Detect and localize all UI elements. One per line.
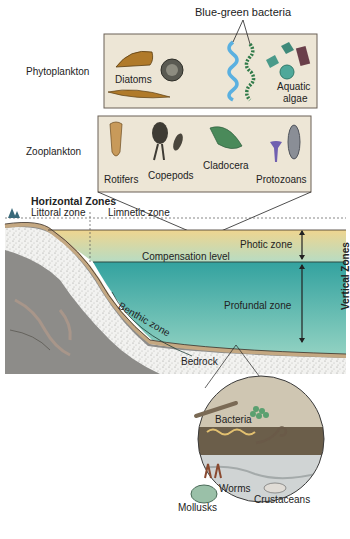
crustaceans-label: Crustaceans — [254, 494, 310, 505]
aquatic-label: Aquatic — [277, 81, 310, 92]
rotifers-label: Rotifers — [104, 174, 138, 185]
cladocera-label: Cladocera — [203, 160, 249, 171]
bacteria-label: Bacteria — [215, 414, 252, 425]
benthic-inset — [195, 375, 330, 505]
profundal-zone-label: Profundal zone — [224, 300, 291, 311]
rotifer-icon — [110, 122, 122, 156]
horizontal-zones-title: Horizontal Zones — [31, 195, 116, 207]
tree-icon — [8, 208, 20, 218]
copepods-label: Copepods — [148, 170, 194, 181]
crustacean-icon — [264, 483, 286, 493]
worms-label: Worms — [219, 483, 250, 494]
limnetic-zone-label: Limnetic zone — [108, 207, 170, 218]
diatoms-label: Diatoms — [115, 74, 152, 85]
photic-zone-label: Photic zone — [240, 239, 292, 250]
blue-green-bacteria-label: Blue-green bacteria — [195, 6, 291, 18]
littoral-zone-label: Littoral zone — [31, 207, 85, 218]
vertical-zones-title: Vertical Zones — [340, 242, 350, 310]
mollusk-icon — [191, 485, 217, 503]
algae-label: algae — [283, 93, 307, 104]
protozoans-label: Protozoans — [256, 174, 307, 185]
compensation-level-label: Compensation level — [142, 251, 230, 262]
zooplankton-label: Zooplankton — [26, 146, 81, 157]
bedrock-label: Bedrock — [181, 356, 218, 367]
phytoplankton-label: Phytoplankton — [26, 66, 89, 77]
mollusks-label: Mollusks — [178, 502, 217, 513]
